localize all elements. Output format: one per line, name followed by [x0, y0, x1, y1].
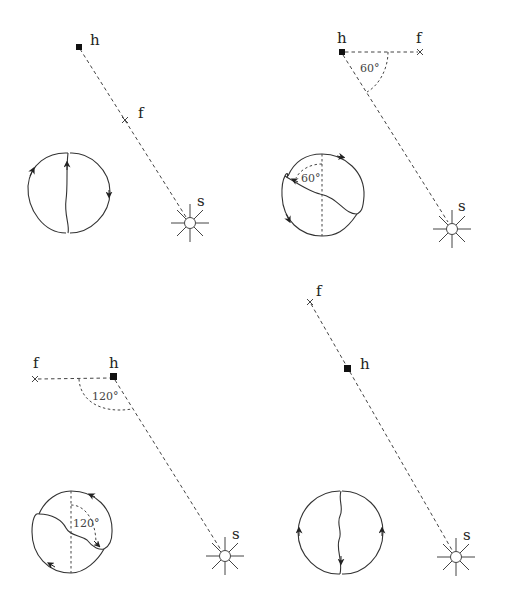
- angle-label: 60°: [360, 62, 380, 75]
- arrow-icon: [50, 564, 55, 567]
- f-label: f: [33, 354, 40, 372]
- arrow-icon: [286, 214, 289, 220]
- angle-label: 120°: [92, 390, 119, 403]
- h-marker-icon: [76, 44, 82, 50]
- panel-4: f h s: [298, 282, 475, 576]
- loop-diagram: [298, 491, 383, 574]
- h-to-s-line: [115, 380, 221, 550]
- loop-diagram: 60°: [282, 154, 364, 236]
- s-label: s: [463, 526, 471, 544]
- arrow-icon: [30, 170, 33, 176]
- h-label: h: [337, 29, 347, 47]
- f-label: f: [416, 29, 423, 47]
- h-label: h: [90, 31, 100, 49]
- h-label: h: [109, 354, 119, 372]
- loop-diagram: [28, 153, 110, 233]
- loop-diagram: 120°: [32, 491, 112, 573]
- f-cross-icon: [32, 376, 38, 382]
- f-h-s-line: [311, 304, 452, 550]
- f-label: f: [316, 282, 323, 300]
- s-label: s: [458, 197, 466, 215]
- panel-3: 120° h f s 120°: [32, 354, 244, 575]
- h-marker-icon: [344, 365, 351, 372]
- f-cross-icon: [122, 117, 128, 123]
- h-to-s-line: [343, 55, 448, 222]
- s-label: s: [197, 192, 205, 210]
- figure-canvas: h f s 60° h: [0, 0, 506, 601]
- h-to-s-line: [80, 49, 186, 217]
- arrow-icon: [94, 541, 98, 545]
- h-marker-icon: [339, 49, 345, 55]
- h-to-f-line: [38, 378, 110, 379]
- panel-1: h f s: [28, 31, 209, 242]
- h-label: h: [360, 355, 370, 373]
- s-label: s: [232, 525, 240, 543]
- panel-2: 60° h f s 60°: [282, 29, 471, 248]
- angle-label: 120°: [73, 517, 100, 530]
- f-label: f: [138, 104, 145, 122]
- angle-label: 60°: [301, 172, 321, 185]
- source-star-icon: [433, 210, 471, 248]
- f-cross-icon: [307, 299, 313, 305]
- h-marker-icon: [110, 373, 117, 380]
